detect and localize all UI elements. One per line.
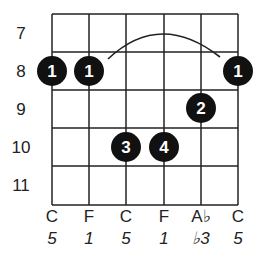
finger-4: 4 <box>159 138 169 157</box>
finger-1: 1 <box>84 62 93 81</box>
fret-label: 11 <box>6 177 36 194</box>
finger-1: 1 <box>233 62 242 81</box>
note-label: C <box>114 208 138 225</box>
interval-label: 5 <box>114 230 138 247</box>
fret-label: 9 <box>6 101 36 118</box>
fret-label: 8 <box>6 63 36 80</box>
note-label: A♭ <box>189 208 213 225</box>
note-label: C <box>226 208 250 225</box>
finger-2: 2 <box>196 99 205 118</box>
finger-1: 1 <box>47 62 56 81</box>
interval-label: ♭3 <box>189 230 213 247</box>
note-label: F <box>152 208 176 225</box>
fret-label: 7 <box>6 25 36 42</box>
chord-grid: 1 1 1 2 3 4 <box>0 0 268 269</box>
note-label: C <box>40 208 64 225</box>
interval-label: 5 <box>40 230 64 247</box>
interval-label: 5 <box>226 230 250 247</box>
finger-3: 3 <box>121 138 130 157</box>
interval-label: 1 <box>77 230 101 247</box>
note-label: F <box>77 208 101 225</box>
interval-label: 1 <box>152 230 176 247</box>
fret-label: 10 <box>6 139 36 156</box>
